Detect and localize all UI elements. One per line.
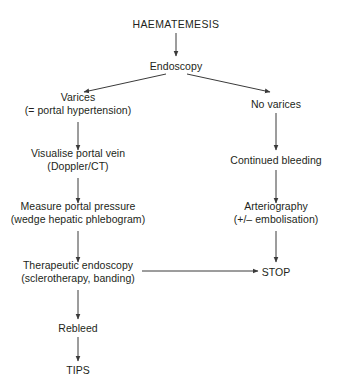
node-varices-label: Varices	[61, 91, 96, 103]
node-endoscopy-label: Endoscopy	[150, 60, 202, 72]
edge-endoscopy-no-varices	[187, 74, 270, 92]
node-tips-label: TIPS	[66, 364, 90, 376]
node-continued-bleeding-label: Continued bleeding	[230, 154, 321, 166]
node-measure-portal-pressure-label: Measure portal pressure	[21, 200, 136, 212]
node-stop: STOP	[262, 266, 291, 279]
node-rebleed-label: Rebleed	[58, 322, 97, 334]
node-visualise-portal-vein: Visualise portal vein (Doppler/CT)	[31, 147, 125, 172]
node-measure-portal-pressure: Measure portal pressure (wedge hepatic p…	[11, 200, 145, 225]
node-tips: TIPS	[66, 364, 90, 377]
node-rebleed: Rebleed	[58, 322, 97, 335]
node-no-varices-label: No varices	[251, 98, 301, 110]
node-arteriography-label: Arteriography	[244, 200, 308, 212]
flowchart-connectors	[0, 0, 337, 386]
node-therapeutic-endoscopy: Therapeutic endoscopy (sclerotherapy, ba…	[21, 259, 135, 284]
node-haematemesis: HAEMATEMESIS	[133, 18, 220, 31]
node-stop-label: STOP	[262, 266, 291, 278]
node-varices: Varices (= portal hypertension)	[25, 91, 132, 116]
node-endoscopy: Endoscopy	[150, 60, 202, 73]
edge-endoscopy-varices	[84, 74, 166, 92]
node-arteriography-sublabel: (+/– embolisation)	[234, 213, 319, 226]
node-visualise-portal-vein-sublabel: (Doppler/CT)	[31, 160, 125, 173]
node-therapeutic-endoscopy-sublabel: (sclerotherapy, banding)	[21, 272, 135, 285]
node-varices-sublabel: (= portal hypertension)	[25, 104, 132, 117]
flowchart-canvas: HAEMATEMESIS Endoscopy Varices (= portal…	[0, 0, 337, 386]
node-measure-portal-pressure-sublabel: (wedge hepatic phlebogram)	[11, 213, 145, 226]
node-no-varices: No varices	[251, 98, 301, 111]
node-continued-bleeding: Continued bleeding	[230, 154, 321, 167]
node-haematemesis-label: HAEMATEMESIS	[133, 18, 220, 30]
node-visualise-portal-vein-label: Visualise portal vein	[31, 147, 125, 159]
node-therapeutic-endoscopy-label: Therapeutic endoscopy	[23, 259, 133, 271]
node-arteriography: Arteriography (+/– embolisation)	[234, 200, 319, 225]
